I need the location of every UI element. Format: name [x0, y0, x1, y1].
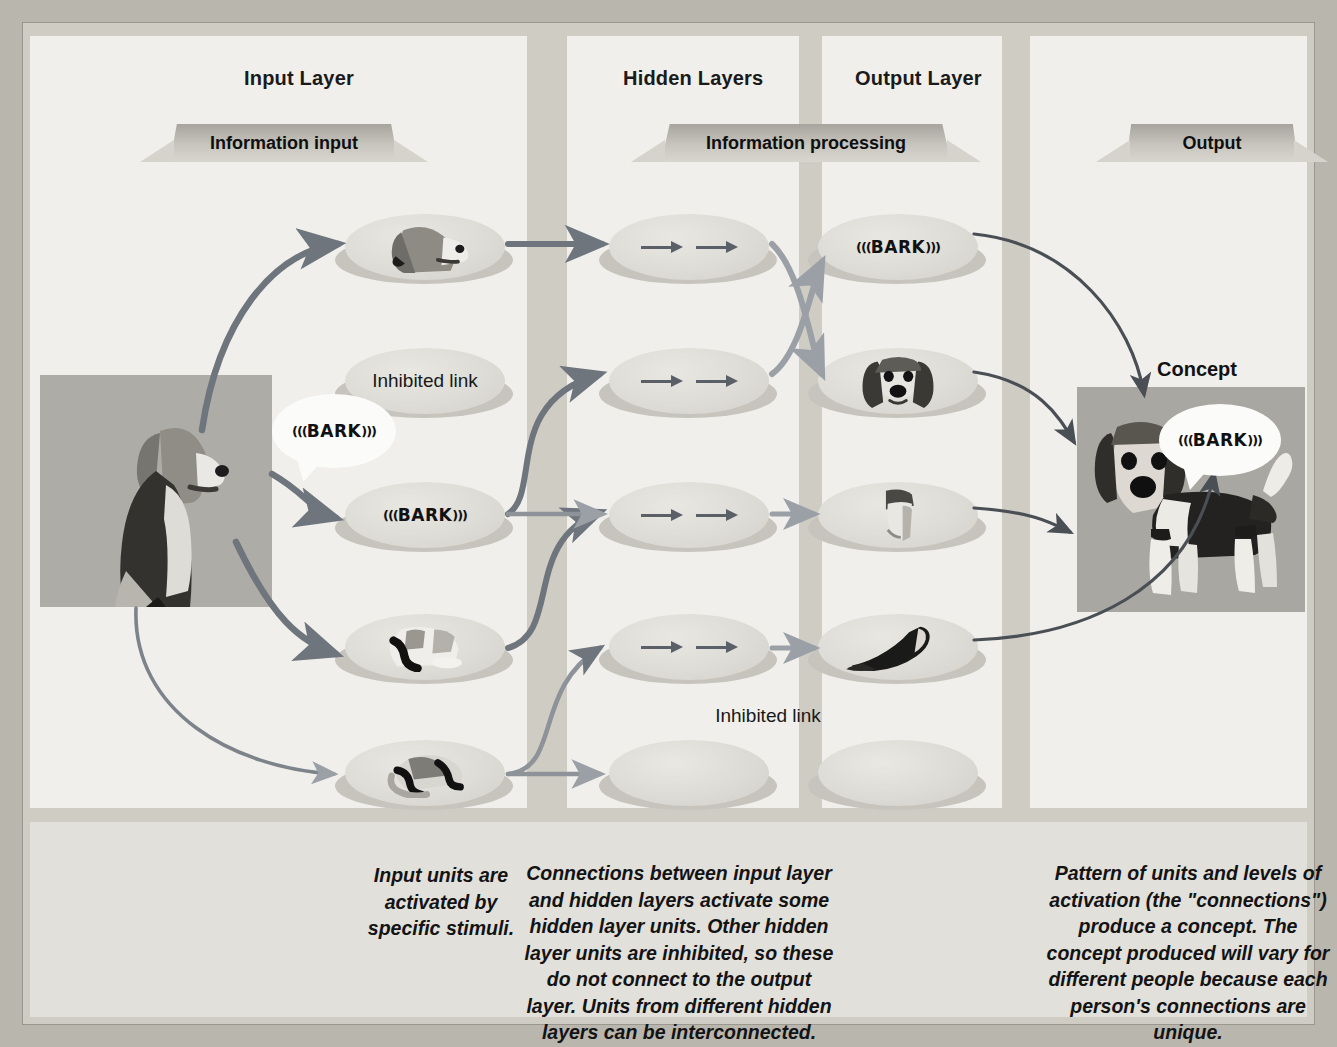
concept-bark-bubble: (((BARK))) — [1159, 404, 1281, 476]
node-disc — [818, 348, 978, 414]
node-disc: (((BARK))) — [818, 214, 978, 280]
node-label: Inhibited link — [372, 371, 478, 392]
arrow-right-icon — [641, 375, 683, 387]
caption-output: Pattern of units and levels of activatio… — [1044, 860, 1332, 1046]
ribbon-tail-right — [1294, 140, 1328, 162]
node-disc — [818, 740, 978, 806]
caption-hidden: Connections between input layer and hidd… — [520, 860, 838, 1046]
arrow-right-icon — [641, 509, 683, 521]
concept-title: Concept — [1157, 358, 1237, 381]
node-disc — [345, 614, 505, 680]
caption-input: Input units are activated by specific st… — [352, 862, 530, 942]
figure-frame: Input Layer Hidden Layers Output Layer I… — [22, 22, 1315, 1025]
output-layer-title: Output Layer — [855, 67, 982, 90]
arrow-right-icon — [696, 375, 738, 387]
input-stimulus-photo — [40, 375, 272, 607]
dog-front-paws-icon — [369, 622, 481, 672]
ribbon-output: Output — [1126, 124, 1298, 162]
dog-head-front-icon — [847, 354, 949, 408]
dog-head-icon — [370, 221, 480, 273]
bark-text: (((BARK))) — [856, 237, 940, 257]
node-disc — [818, 614, 978, 680]
dog-paw-icon — [865, 489, 931, 541]
processing-arrows-icon — [641, 641, 738, 653]
inhibited-link-note: Inhibited link — [710, 705, 826, 727]
processing-arrows-icon — [641, 509, 738, 521]
arrow-right-icon — [696, 509, 738, 521]
arrow-right-icon — [641, 241, 683, 253]
ribbon-label: Output — [1183, 133, 1242, 154]
ribbon-label: Information processing — [706, 133, 906, 154]
processing-arrows-icon — [641, 241, 738, 253]
node-disc: (((BARK))) — [345, 482, 505, 548]
arrow-right-icon — [696, 241, 738, 253]
node-disc — [609, 614, 769, 680]
dog-hind-leg-icon — [369, 748, 481, 798]
ribbon-information-input: Information input — [170, 124, 398, 162]
node-disc — [609, 348, 769, 414]
diagram-stage: Input Layer Hidden Layers Output Layer I… — [22, 22, 1315, 1025]
bark-text: (((BARK))) — [292, 421, 376, 441]
input-layer-title: Input Layer — [244, 67, 354, 90]
dog-tail-icon — [842, 623, 954, 671]
bark-text: (((BARK))) — [1178, 430, 1262, 450]
processing-arrows-icon — [641, 375, 738, 387]
arrow-right-icon — [641, 641, 683, 653]
ribbon-information-processing: Information processing — [661, 124, 951, 162]
bark-text: (((BARK))) — [383, 505, 467, 525]
node-disc — [345, 214, 505, 280]
node-disc — [345, 740, 505, 806]
ribbon-label: Information input — [210, 133, 358, 154]
hidden-layer-title: Hidden Layers — [623, 67, 763, 90]
node-disc — [609, 482, 769, 548]
stimulus-bark-bubble: (((BARK))) — [272, 394, 396, 468]
arrow-right-icon — [696, 641, 738, 653]
node-disc — [818, 482, 978, 548]
node-disc — [609, 740, 769, 806]
node-disc — [609, 214, 769, 280]
